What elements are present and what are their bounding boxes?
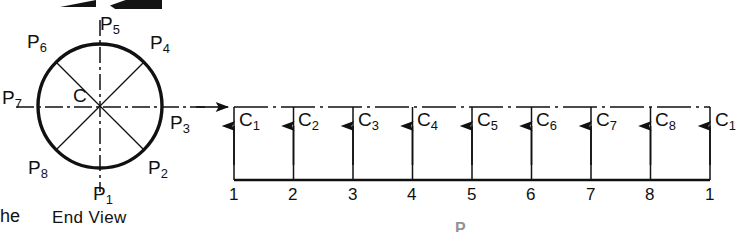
- point-label-p6: P6: [27, 32, 47, 51]
- center-label: C: [73, 86, 87, 105]
- element-label-c5: C5: [477, 110, 498, 129]
- point-label-p1: P1: [93, 184, 113, 203]
- baseline-number-7: 7: [586, 186, 595, 203]
- element-label-c2: C2: [298, 110, 319, 129]
- element-label-c1-end: C1: [715, 110, 736, 129]
- element-label-c7: C7: [596, 110, 617, 129]
- element-label-c3: C3: [358, 110, 379, 129]
- point-label-p4: P4: [150, 33, 170, 52]
- point-label-p3: P3: [170, 113, 190, 132]
- point-label-p7: P7: [2, 88, 22, 107]
- baseline-number-4: 4: [407, 186, 416, 203]
- baseline-number-8: 8: [645, 186, 654, 203]
- figure-root: P5 P4 P6 P7 P3 P8 P2 P1 C End View he P …: [0, 0, 738, 232]
- baseline-number-3: 3: [348, 186, 357, 203]
- point-label-p2: P2: [148, 158, 168, 177]
- baseline-number-1: 1: [229, 186, 238, 203]
- element-label-c1: C1: [239, 110, 260, 129]
- point-label-p5: P5: [100, 14, 120, 33]
- baseline-number-1-end: 1: [705, 186, 714, 203]
- baseline-number-2: 2: [288, 186, 297, 203]
- page-text-fragment: he: [0, 207, 20, 225]
- point-label-p8: P8: [28, 158, 48, 177]
- element-label-c6: C6: [536, 110, 557, 129]
- element-label-c8: C8: [655, 110, 676, 129]
- element-label-c4: C4: [417, 110, 438, 129]
- end-view-caption: End View: [52, 209, 127, 226]
- baseline-number-5: 5: [467, 186, 476, 203]
- page-bottom-fragment: P: [455, 221, 466, 232]
- baseline-number-6: 6: [526, 186, 535, 203]
